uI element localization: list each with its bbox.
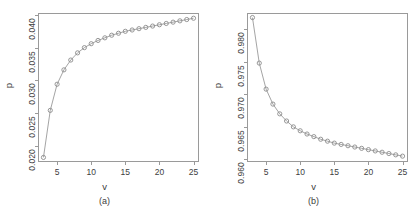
y-tick-label: 0.965 [236, 126, 246, 156]
x-tickmark [159, 162, 160, 165]
y-tick-label: 0.020 [27, 145, 37, 175]
y-axis-title-b: p [212, 76, 223, 96]
y-tick-label: 0.040 [27, 14, 37, 44]
x-tickmark [266, 162, 267, 165]
y-tick-label: 0.980 [236, 28, 246, 58]
x-tickmark [300, 162, 301, 165]
x-tickmark [334, 162, 335, 165]
y-axis-title-a: p [3, 76, 14, 96]
figure-container: 5101520250.0200.0250.0300.0350.040 p v (… [0, 0, 418, 209]
x-tickmark [91, 162, 92, 165]
x-tickmark [194, 162, 195, 165]
x-tick-label: 15 [320, 167, 348, 177]
x-tickmark [403, 162, 404, 165]
chart-panel-a: 5101520250.0200.0250.0300.0350.040 p v (… [0, 0, 209, 209]
x-tick-label: 20 [145, 167, 173, 177]
x-tick-label: 25 [180, 167, 208, 177]
x-tick-label: 25 [389, 167, 417, 177]
x-tick-label: 5 [43, 167, 71, 177]
y-tick-label: 0.035 [27, 47, 37, 77]
y-tick-label: 0.975 [236, 61, 246, 91]
x-axis-title-b: v [209, 181, 418, 192]
x-tick-label: 15 [111, 167, 139, 177]
y-tick-label: 0.025 [27, 112, 37, 142]
data-line [43, 18, 193, 157]
x-tickmark [368, 162, 369, 165]
plot-area-a [38, 13, 199, 162]
x-axis-title-a: v [0, 181, 209, 192]
x-tickmark [125, 162, 126, 165]
x-tick-label: 10 [286, 167, 314, 177]
panel-caption-a: (a) [0, 196, 209, 206]
panel-caption-b: (b) [209, 196, 418, 206]
plot-area-b [247, 13, 408, 162]
x-tick-label: 10 [77, 167, 105, 177]
x-tick-label: 5 [252, 167, 280, 177]
y-tick-label: 0.030 [27, 79, 37, 109]
x-tick-label: 20 [354, 167, 382, 177]
chart-panel-b: 5101520250.9600.9650.9700.9750.980 p v (… [209, 0, 418, 209]
x-tickmark [57, 162, 58, 165]
y-tick-label: 0.970 [236, 93, 246, 123]
data-line [252, 18, 402, 157]
